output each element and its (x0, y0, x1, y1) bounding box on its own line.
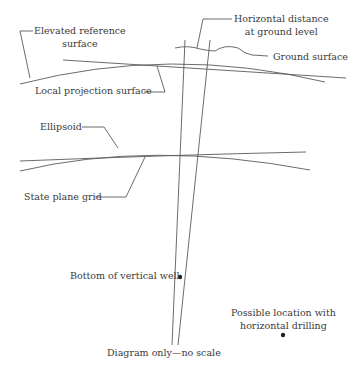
label-state-plane-grid: State plane grid (24, 191, 102, 204)
label-local-projection-surface: Local projection surface (35, 85, 152, 98)
label-elevated-reference: Elevated reference surface (34, 25, 126, 50)
leader-elevated-reference (20, 31, 33, 78)
leader-state-plane-grid (95, 157, 145, 197)
possible-location-dot (281, 333, 285, 337)
label-possible-location-line1: Possible location with (231, 307, 336, 320)
label-possible-location-line2: horizontal drilling (231, 320, 336, 333)
label-elevated-reference-line2: surface (34, 38, 126, 51)
label-horizontal-distance-line2: at ground level (234, 26, 329, 39)
footnote-no-scale: Diagram only—no scale (107, 347, 221, 360)
label-elevated-reference-line1: Elevated reference (34, 25, 126, 38)
ellipsoid-curve (20, 155, 310, 171)
label-bottom-of-vertical-well: Bottom of vertical well (70, 270, 180, 283)
state-plane-grid-line (20, 152, 306, 161)
leader-ellipsoid (82, 127, 118, 148)
label-ground-surface: Ground surface (273, 51, 348, 64)
label-horizontal-distance-line1: Horizontal distance (234, 13, 329, 26)
label-ellipsoid: Ellipsoid (40, 121, 82, 134)
label-possible-location: Possible location with horizontal drilli… (231, 307, 336, 332)
leader-horizontal-distance (197, 19, 232, 48)
label-horizontal-distance: Horizontal distance at ground level (234, 13, 329, 38)
ground-surface-wavy-line (175, 47, 268, 56)
